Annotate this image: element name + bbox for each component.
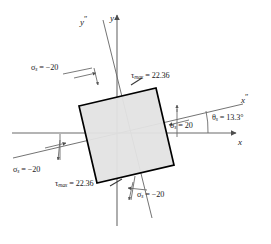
stress-element-square (79, 88, 174, 183)
stress-element-figure: y y″ x x″ σs = −20 σs = 20 σs = −20 σs =… (0, 0, 271, 244)
y-double-prime-axis-label: y″ (80, 16, 87, 27)
sigma-label-bottom: σs = −20 (137, 191, 164, 200)
sigma-label-right: σs = 20 (170, 122, 193, 131)
y-axis-label: y (110, 12, 114, 23)
x-double-prime-axis-label: x″ (241, 94, 248, 105)
x-axis-label: x (238, 136, 242, 147)
sigma-label-top-left: σs = −20 (31, 64, 58, 73)
tau-max-label-top: τmax = 22.36 (131, 72, 170, 81)
theta-label: θs = 13.3° (212, 114, 243, 123)
theta-angle-arc (206, 111, 208, 133)
sigma-arrow-top-left (63, 68, 98, 85)
tau-max-label-bottom: τmax = 22.36 (55, 180, 94, 189)
sigma-arrow-left (45, 134, 66, 160)
sigma-label-bottom-left: σs = −20 (13, 166, 40, 175)
